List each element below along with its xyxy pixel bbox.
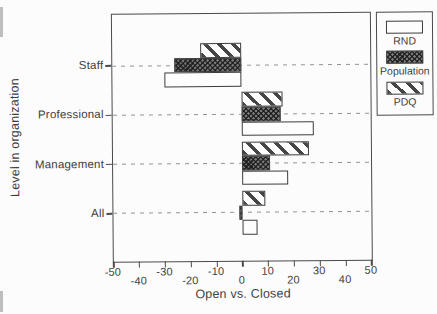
legend-entry-population: Population [380,50,430,76]
legend-label-population: Population [380,64,430,76]
plot-area [111,12,373,263]
x-tick-label-50: 50 [365,264,378,276]
legend-label-pdq: PDQ [394,95,417,107]
x-tick-label--30: -30 [156,265,173,277]
legend-label-rnd: RND [393,34,416,46]
bar-population-staff [174,58,241,73]
x-tick-label-40: 40 [339,273,352,285]
x-tick-20 [294,260,295,266]
bar-rnd-management [242,170,289,185]
legend-swatch-population [386,50,423,63]
bar-population-professional [242,107,281,122]
legend-box: RNDPopulationPDQ [376,11,434,115]
x-tick--40 [139,262,140,268]
x-tick-label-20: 20 [287,273,300,285]
x-axis-title: Open vs. Closed [195,286,291,301]
bar-pdq-management [242,141,309,156]
bar-population-all [240,205,243,220]
bar-rnd-all [242,220,258,235]
x-tick-label--50: -50 [105,266,122,278]
x-tick-label--20: -20 [182,274,199,286]
category-label-staff: Staff [0,58,103,73]
bar-pdq-staff [200,43,241,58]
x-tick-label-10: 10 [261,265,274,277]
bar-rnd-professional [242,121,314,136]
legend-entry-rnd: RND [386,20,423,46]
bar-rnd-staff [164,72,242,87]
x-tick--20 [191,261,192,267]
y-tick-staff [105,65,111,66]
bar-pdq-all [242,191,265,206]
category-label-management: Management [0,156,104,171]
y-tick-all [106,213,112,214]
legend-entry-pdq: PDQ [386,81,423,107]
x-tick-0 [242,261,243,267]
figure-canvas: Level in organization Open vs. Closed RN… [0,0,437,314]
bar-pdq-professional [241,92,282,107]
category-label-professional: Professional [0,107,104,122]
x-tick-label--40: -40 [130,275,147,287]
y-tick-management [106,164,112,165]
bar-population-management [242,156,270,171]
x-tick-label-0: 0 [239,274,245,286]
y-axis-title: Level in organization [7,78,22,197]
x-tick-label--10: -10 [208,265,225,277]
y-tick-professional [106,114,112,115]
x-tick-label-30: 30 [313,264,326,276]
legend-swatch-pdq [386,81,423,94]
legend-swatch-rnd [386,20,423,33]
x-tick-40 [345,260,346,266]
chart: Level in organization Open vs. Closed RN… [0,0,437,314]
category-label-all: All [0,206,104,221]
